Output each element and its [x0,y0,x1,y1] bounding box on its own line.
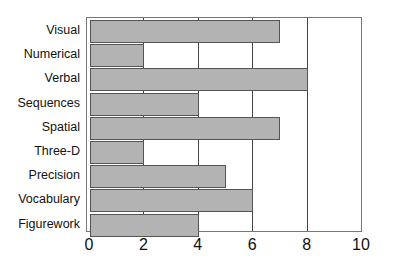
x-tick-label: 0 [85,236,94,254]
x-tick-label: 10 [352,236,370,254]
bar-sequences [90,93,199,116]
category-label: Sequences [17,96,80,110]
bar-spatial [90,117,280,140]
bar-verbal [90,68,308,91]
category-label: Three-D [34,144,80,158]
bar-figurework [90,214,199,237]
x-tick-label: 8 [302,236,311,254]
bar-three-d [90,141,144,164]
category-label: Verbal [45,71,80,85]
bar-visual [90,20,280,43]
x-tick-label: 4 [193,236,202,254]
plot-area [86,17,362,232]
category-label: Spatial [42,120,80,134]
x-tick-label: 6 [248,236,257,254]
category-label: Numerical [24,47,80,61]
bar-numerical [90,44,144,67]
category-label: Vocabulary [18,192,80,206]
x-tick-label: 2 [139,236,148,254]
category-label: Precision [29,168,80,182]
category-label: Figurework [18,217,80,231]
gridline [307,18,308,231]
bar-precision [90,165,226,188]
bar-vocabulary [90,189,253,212]
category-label: Visual [46,23,80,37]
